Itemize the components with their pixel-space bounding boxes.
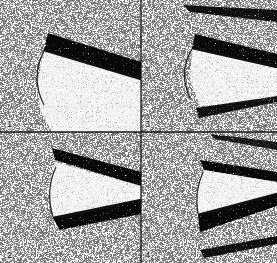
panel-3-label: 3 xyxy=(144,120,151,129)
figure-canvas xyxy=(0,0,277,263)
panel-4-label: 4 xyxy=(144,251,151,260)
panel-2-label: 2 xyxy=(6,251,13,260)
panel-1-label: 1 xyxy=(6,120,13,129)
figure: 1 3 2 4 xyxy=(0,0,277,263)
